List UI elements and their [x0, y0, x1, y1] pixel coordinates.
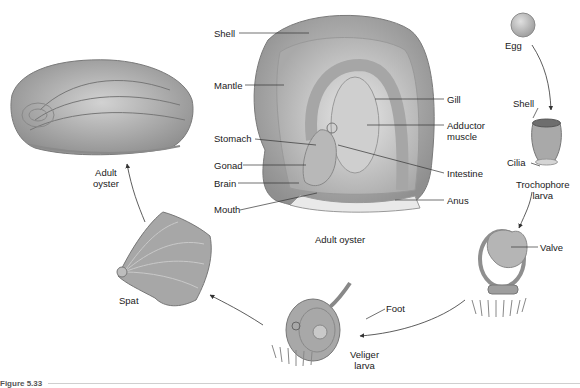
label-brain: Brain	[214, 178, 236, 189]
label-adductor-line2: muscle	[447, 131, 485, 142]
label-foot: Foot	[386, 303, 405, 314]
label-mantle: Mantle	[214, 80, 243, 91]
label-cilia: Cilia	[507, 157, 525, 168]
veliger-larva	[272, 283, 350, 366]
spat	[117, 212, 211, 306]
label-stomach: Stomach	[214, 133, 252, 144]
label-adult-oyster-caption: Adult oyster	[315, 234, 365, 245]
trochophore-larva	[532, 119, 562, 165]
label-gonad: Gonad	[214, 160, 243, 171]
label-shell: Shell	[214, 28, 235, 39]
label-trochophore-shell: Shell	[513, 98, 534, 109]
figure-caption: Figure 5.33	[0, 379, 42, 388]
label-trochophore-larva: Trochophore larva	[516, 179, 570, 201]
life-cycle-illustration	[0, 0, 580, 388]
label-mouth: Mouth	[214, 204, 240, 215]
label-intestine: Intestine	[447, 168, 483, 179]
label-veliger-larva: Veliger larva	[350, 349, 379, 371]
label-veliger-line1: Veliger	[350, 349, 379, 360]
label-trochophore-line1: Trochophore	[516, 179, 570, 190]
label-adult-line2: oyster	[93, 178, 119, 189]
egg	[511, 13, 535, 37]
label-adult-line1: Adult	[93, 167, 119, 178]
label-spat: Spat	[119, 295, 139, 306]
label-adult-oyster: Adult oyster	[93, 167, 119, 189]
label-trochophore-line2: larva	[516, 190, 570, 201]
label-gill: Gill	[447, 94, 461, 105]
caption-rule	[48, 383, 580, 384]
label-veliger-line2: larva	[350, 360, 379, 371]
label-anus: Anus	[447, 195, 469, 206]
label-egg: Egg	[505, 40, 522, 51]
label-adductor-line1: Adductor	[447, 120, 485, 131]
label-valve: Valve	[540, 242, 563, 253]
pediveliger-larva	[472, 230, 527, 317]
adult-oyster-exterior	[11, 60, 193, 155]
label-adductor-muscle: Adductor muscle	[447, 120, 485, 142]
